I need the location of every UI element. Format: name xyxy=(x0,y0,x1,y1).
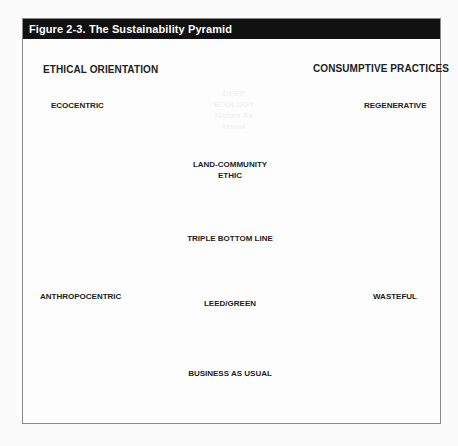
figure-frame: Figure 2-3. The Sustainability Pyramid xyxy=(22,18,441,424)
layer-label-leed-green: LEED/GREEN xyxy=(170,298,290,309)
anthropocentric-label: ANTHROPOCENTRIC xyxy=(40,292,121,301)
layer-line: LAND-COMMUNITY xyxy=(180,159,280,170)
layer-label-deep-ecology: DEEP ECOLOGY Nature As Usual xyxy=(210,88,258,132)
layer-line: DEEP xyxy=(210,88,258,99)
layer-label-business-as-usual: BUSINESS AS USUAL xyxy=(160,368,300,379)
figure-title: Figure 2-3. The Sustainability Pyramid xyxy=(23,19,440,39)
ethical-orientation-header: ETHICAL ORIENTATION xyxy=(43,64,158,75)
consumptive-practices-header: CONSUMPTIVE PRACTICES xyxy=(313,63,449,74)
layer-line: Usual xyxy=(210,121,258,132)
layer-line: ECOLOGY xyxy=(210,99,258,110)
ecocentric-label: ECOCENTRIC xyxy=(51,101,104,110)
layer-line: Nature As xyxy=(210,110,258,121)
layer-label-land-community: LAND-COMMUNITY ETHIC xyxy=(180,159,280,181)
regenerative-label: REGENERATIVE xyxy=(364,101,427,110)
layer-label-triple-bottom-line: TRIPLE BOTTOM LINE xyxy=(170,233,290,244)
layer-line: ETHIC xyxy=(180,170,280,181)
wasteful-label: WASTEFUL xyxy=(373,292,417,301)
